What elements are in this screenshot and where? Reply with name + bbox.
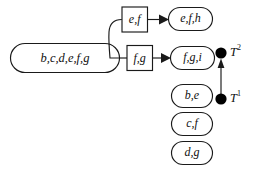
marker-t2-dot bbox=[215, 47, 226, 58]
marker-t2-superscript: 2 bbox=[237, 43, 241, 52]
node-pending-dg[interactable]: d,g bbox=[172, 142, 213, 165]
node-result-fgi[interactable]: f,g,i bbox=[171, 47, 215, 70]
node-pending-be[interactable]: b,e bbox=[172, 85, 213, 108]
node-pending-be-label: b,e bbox=[185, 88, 200, 102]
node-intermediate-ef[interactable]: e,f bbox=[122, 7, 148, 32]
marker-t1-dot bbox=[215, 93, 226, 104]
node-intermediate-ef-label: e,f bbox=[129, 12, 142, 26]
marker-t1-label: T1 bbox=[230, 89, 241, 105]
diagram-graphic: b,c,d,e,f,g e,f f,g e,f,h bbox=[0, 0, 257, 173]
diagram-canvas: b,c,d,e,f,g e,f f,g e,f,h bbox=[0, 0, 257, 173]
node-source-label: b,c,d,e,f,g bbox=[41, 51, 90, 65]
arrow-fg-to-fgi-head bbox=[161, 53, 171, 63]
node-source[interactable]: b,c,d,e,f,g bbox=[11, 44, 120, 73]
node-result-efh[interactable]: e,f,h bbox=[169, 8, 213, 31]
node-intermediate-fg-label: f,g bbox=[134, 51, 146, 65]
arrow-ef-to-efh-head bbox=[159, 15, 169, 25]
arrow-ef-to-efh bbox=[148, 15, 170, 25]
timeline-arrow-head bbox=[218, 59, 225, 69]
node-result-efh-label: e,f,h bbox=[180, 11, 201, 25]
node-intermediate-fg[interactable]: f,g bbox=[127, 46, 153, 71]
marker-t1[interactable]: T1 bbox=[215, 89, 241, 105]
node-pending-dg-label: d,g bbox=[185, 145, 200, 159]
marker-t2[interactable]: T2 bbox=[215, 43, 241, 59]
node-pending-cf[interactable]: c,f bbox=[172, 113, 213, 136]
marker-t2-label: T2 bbox=[230, 43, 241, 59]
arrow-fg-to-fgi bbox=[153, 53, 172, 63]
node-pending-cf-label: c,f bbox=[186, 116, 199, 130]
node-result-fgi-label: f,g,i bbox=[183, 50, 202, 64]
timeline-arrow bbox=[218, 59, 225, 97]
marker-t1-superscript: 1 bbox=[237, 89, 241, 98]
